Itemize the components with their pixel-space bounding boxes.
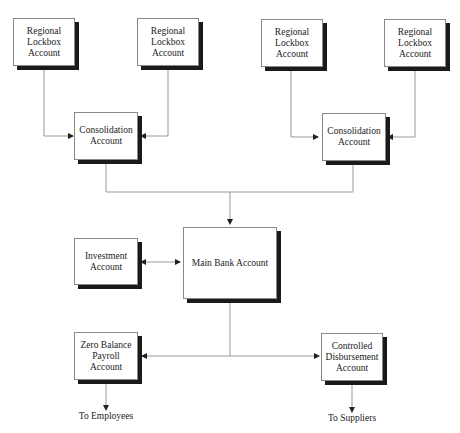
investment-account: Investment Account [74, 238, 138, 285]
regional-lockbox-account-1: Regional Lockbox Account [13, 18, 75, 66]
box-label: Consolidation Account [327, 126, 380, 148]
consolidation-account-left: Consolidation Account [74, 112, 138, 160]
regional-lockbox-account-3: Regional Lockbox Account [261, 19, 323, 67]
box-label: Regional Lockbox Account [398, 27, 432, 60]
consolidation-account-right: Consolidation Account [322, 113, 386, 161]
regional-lockbox-account-4: Regional Lockbox Account [384, 19, 446, 67]
box-label: Main Bank Account [192, 258, 269, 269]
box-label: Regional Lockbox Account [275, 27, 309, 60]
controlled-disbursement-account: Controlled Disbursement Account [321, 333, 383, 381]
box-label: Controlled Disbursement Account [326, 341, 379, 374]
zero-balance-payroll-account: Zero Balance Payroll Account [74, 332, 138, 380]
box-label: Regional Lockbox Account [151, 26, 185, 59]
box-label: Regional Lockbox Account [27, 26, 61, 59]
box-label: Zero Balance Payroll Account [77, 340, 135, 373]
to-suppliers-label: To Suppliers [307, 413, 397, 423]
main-bank-account: Main Bank Account [183, 227, 277, 299]
regional-lockbox-account-2: Regional Lockbox Account [137, 18, 199, 66]
box-label: Consolidation Account [79, 125, 132, 147]
box-label: Investment Account [85, 251, 127, 273]
to-employees-label: To Employees [61, 411, 151, 421]
